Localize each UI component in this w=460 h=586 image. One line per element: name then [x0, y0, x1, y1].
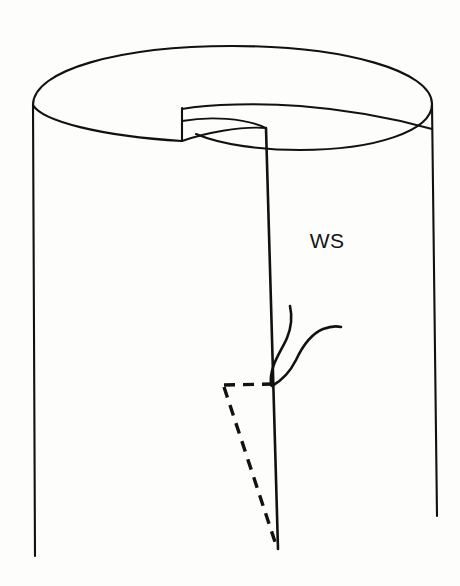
squiggle-outer	[272, 326, 341, 386]
cylinder-right-edge	[432, 104, 437, 516]
figure-canvas: WS	[0, 0, 460, 586]
cylinder-left-edge	[33, 105, 35, 556]
top-rim-front-arc	[33, 105, 182, 141]
step-upper-ledge	[182, 104, 432, 129]
slip-plane-top-edge	[224, 384, 274, 385]
slip-plane-triangle	[224, 384, 277, 548]
cylinder-top-face	[33, 46, 432, 150]
top-rim-outer	[33, 46, 432, 150]
dislocation-core-line	[266, 128, 278, 549]
screw-dislocation-drawing: WS	[0, 0, 460, 586]
dislocation-core	[266, 128, 278, 549]
label-ws: WS	[310, 229, 345, 252]
slip-plane-diagonal-edge	[224, 387, 277, 548]
step-inner-lip	[182, 118, 266, 128]
helical-surface-step	[182, 104, 432, 141]
step-lower-ledge	[182, 128, 266, 141]
cylinder-body	[33, 104, 437, 556]
step-trace-squiggles	[271, 306, 341, 386]
